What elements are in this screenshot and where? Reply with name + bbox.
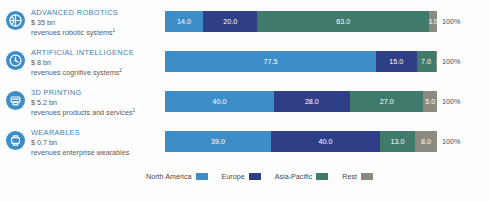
category-title: WEARABLES [31,129,129,136]
chart-row: 3D PRINTING$ 5.2 bnrevenues products and… [0,88,489,128]
category-value: $ 5.2 bn [31,99,135,106]
row-total-label: 100% [442,57,460,66]
bar-segment[interactable]: 20.0 [203,11,257,32]
bar-segment[interactable]: 15.0 [376,51,417,72]
category-description-text: revenues cognitive systems [31,68,119,77]
bar-segment[interactable]: 5.0 [423,91,437,112]
bar-segment[interactable]: 77.5 [165,51,376,72]
category-description-text: revenues enterprise wearables [31,148,129,157]
row-label-text: ADVANCED ROBOTICS$ 35 bnrevenues robotic… [31,8,118,36]
legend-item[interactable]: Rest [342,172,373,181]
stacked-bar: 39.040.013.08.0 [165,131,437,152]
footnote-marker: 1 [132,106,135,112]
stacked-bar: 40.028.027.05.0 [165,91,437,112]
legend-item-label: Asia-Pacific [275,172,313,181]
row-bar-area: 77.515.07.00.5100% [165,50,489,72]
category-description: revenues products and services1 [31,109,135,116]
row-label-block: ADVANCED ROBOTICS$ 35 bnrevenues robotic… [0,8,165,36]
stacked-bar: 14.020.063.03.0 [165,11,437,32]
bar-segment[interactable]: 40.0 [165,91,274,112]
bar-segment[interactable]: 8.0 [415,131,437,152]
row-label-text: 3D PRINTING$ 5.2 bnrevenues products and… [31,88,135,116]
smartwatch-icon [6,131,25,150]
globe-robot-icon [6,11,25,30]
legend-item-label: Europe [222,172,245,181]
bar-segment[interactable]: 13.0 [380,131,415,152]
category-description: revenues robotic systems1 [31,29,118,36]
row-label-block: ARTIFICIAL INTELLIGENCE$ 8 bnrevenues co… [0,48,165,76]
legend-item[interactable]: Asia-Pacific [275,172,329,181]
category-description-text: revenues robotic systems [31,28,113,37]
category-description: revenues enterprise wearables [31,149,129,156]
stacked-bar-chart: ADVANCED ROBOTICS$ 35 bnrevenues robotic… [0,0,489,202]
chart-rows: ADVANCED ROBOTICS$ 35 bnrevenues robotic… [0,8,489,168]
category-description-text: revenues products and services [31,108,132,117]
footnote-marker: 2 [119,66,122,72]
legend-color-swatch [249,173,261,180]
bar-segment[interactable]: 63.0 [257,11,428,32]
row-label-text: ARTIFICIAL INTELLIGENCE$ 8 bnrevenues co… [31,48,134,76]
category-value: $ 8 bn [31,59,134,66]
bar-segment[interactable]: 3.0 [429,11,437,32]
bar-segment[interactable]: 0.5 [436,51,437,72]
printer-3d-icon [6,91,25,110]
legend-color-swatch [361,173,373,180]
legend-color-swatch [316,173,328,180]
category-title: ARTIFICIAL INTELLIGENCE [31,49,134,56]
category-value: $ 0.7 bn [31,139,129,146]
category-value: $ 35 bn [31,19,118,26]
row-label-block: WEARABLES$ 0.7 bnrevenues enterprise wea… [0,128,165,156]
row-bar-area: 14.020.063.03.0100% [165,10,489,32]
row-total-label: 100% [442,17,460,26]
legend-item[interactable]: Europe [222,172,261,181]
bar-segment[interactable]: 40.0 [271,131,380,152]
bar-segment[interactable]: 39.0 [165,131,271,152]
chart-row: WEARABLES$ 0.7 bnrevenues enterprise wea… [0,128,489,168]
stacked-bar: 77.515.07.00.5 [165,51,437,72]
row-total-label: 100% [442,97,460,106]
row-bar-area: 39.040.013.08.0100% [165,130,489,152]
category-description: revenues cognitive systems2 [31,69,134,76]
bar-segment[interactable]: 14.0 [165,11,203,32]
footnote-marker: 1 [113,26,116,32]
chart-row: ARTIFICIAL INTELLIGENCE$ 8 bnrevenues co… [0,48,489,88]
brain-chip-icon [6,51,25,70]
row-total-label: 100% [442,137,460,146]
category-title: ADVANCED ROBOTICS [31,9,118,16]
row-label-block: 3D PRINTING$ 5.2 bnrevenues products and… [0,88,165,116]
chart-legend: North AmericaEuropeAsia-PacificRest [0,172,489,181]
legend-item[interactable]: North America [146,172,208,181]
row-bar-area: 40.028.027.05.0100% [165,90,489,112]
legend-color-swatch [196,173,208,180]
chart-row: ADVANCED ROBOTICS$ 35 bnrevenues robotic… [0,8,489,48]
legend-item-label: Rest [342,172,357,181]
row-label-text: WEARABLES$ 0.7 bnrevenues enterprise wea… [31,128,129,156]
legend-item-label: North America [146,172,192,181]
category-title: 3D PRINTING [31,89,135,96]
bar-segment[interactable]: 28.0 [274,91,350,112]
bar-segment[interactable]: 7.0 [417,51,436,72]
bar-segment[interactable]: 27.0 [350,91,423,112]
